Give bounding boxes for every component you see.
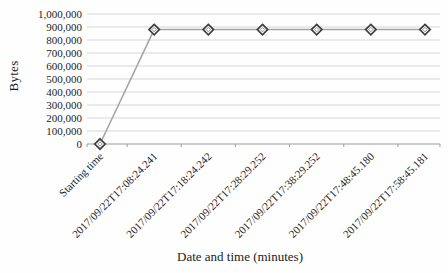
data-point-marker xyxy=(149,24,159,34)
data-point-marker xyxy=(366,24,376,34)
data-point-marker xyxy=(420,24,430,34)
y-tick-label: 0 xyxy=(77,138,83,150)
data-line xyxy=(100,30,425,144)
y-tick-label: 100,000 xyxy=(46,125,82,137)
data-point-marker xyxy=(95,139,105,149)
data-point-marker xyxy=(203,24,213,34)
y-tick-label: 200,000 xyxy=(46,112,82,124)
x-axis-title: Date and time (minutes) xyxy=(177,249,303,265)
chart-figure: 0100,000200,000300,000400,000500,000600,… xyxy=(0,0,448,273)
y-tick-label: 1,000,000 xyxy=(38,8,83,20)
y-tick-label: 900,000 xyxy=(46,21,82,33)
y-tick-label: 400,000 xyxy=(46,86,82,98)
chart-canvas: 0100,000200,000300,000400,000500,000600,… xyxy=(0,0,448,273)
y-tick-label: 600,000 xyxy=(46,60,82,72)
x-tick-label: Starting time xyxy=(57,150,106,199)
y-tick-label: 800,000 xyxy=(46,34,82,46)
y-tick-label: 700,000 xyxy=(46,47,82,59)
data-point-marker xyxy=(311,24,321,34)
data-point-marker xyxy=(257,24,267,34)
y-tick-label: 300,000 xyxy=(46,99,82,111)
y-tick-label: 500,000 xyxy=(46,73,82,85)
y-axis-title: Bytes xyxy=(6,60,22,91)
